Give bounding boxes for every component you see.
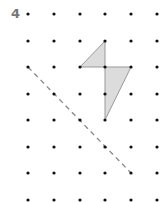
grid-dot	[78, 145, 81, 148]
grid-dot	[155, 39, 158, 42]
grid-dot	[78, 12, 81, 15]
grid-dot	[26, 198, 29, 201]
grid-dot	[26, 12, 29, 15]
grid-dot	[78, 65, 81, 68]
grid-dot	[78, 39, 81, 42]
grid-dot	[103, 171, 106, 174]
grid-dot	[26, 171, 29, 174]
grid-dot	[103, 65, 106, 68]
dot-grid-diagram: 4	[0, 0, 164, 202]
grid-dot	[129, 65, 132, 68]
grid-dot	[129, 145, 132, 148]
grid-dot	[52, 198, 55, 201]
grid-dot	[26, 145, 29, 148]
grid-dot	[103, 118, 106, 121]
grid-dot	[78, 171, 81, 174]
grid-dots	[26, 12, 158, 201]
grid-dot	[103, 12, 106, 15]
grid-dot	[155, 198, 158, 201]
grid-dot	[155, 118, 158, 121]
grid-dot	[52, 39, 55, 42]
grid-dot	[103, 198, 106, 201]
grid-dot	[129, 171, 132, 174]
grid-dot	[52, 92, 55, 95]
grid-dot	[129, 39, 132, 42]
grid-dot	[78, 198, 81, 201]
grid-dot	[155, 145, 158, 148]
grid-dot	[26, 65, 29, 68]
grid-dot	[129, 118, 132, 121]
grid-dot	[129, 92, 132, 95]
grid-dot	[155, 92, 158, 95]
grid-dot	[155, 65, 158, 68]
grid-dot	[26, 39, 29, 42]
grid-dot	[103, 145, 106, 148]
grid-dot	[52, 118, 55, 121]
grid-dot	[155, 12, 158, 15]
grid-dot	[26, 118, 29, 121]
grid-dot	[26, 92, 29, 95]
kite-shape	[80, 41, 131, 120]
grid-dot	[52, 12, 55, 15]
diagram-canvas	[0, 0, 164, 202]
grid-dot	[52, 171, 55, 174]
grid-dot	[52, 145, 55, 148]
grid-dot	[78, 92, 81, 95]
grid-dot	[52, 65, 55, 68]
grid-dot	[103, 92, 106, 95]
grid-dot	[155, 171, 158, 174]
grid-dot	[129, 198, 132, 201]
grid-dot	[78, 118, 81, 121]
grid-dot	[129, 12, 132, 15]
grid-dot	[103, 39, 106, 42]
